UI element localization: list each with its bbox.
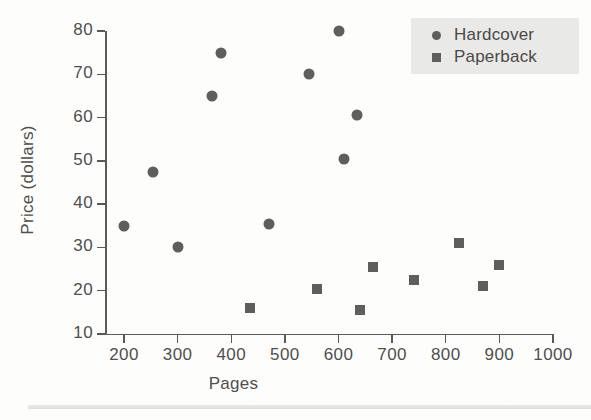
x-axis-tick-label: 800	[431, 345, 461, 365]
square-marker-icon	[427, 53, 445, 62]
data-point-hardcover	[338, 153, 349, 164]
x-axis-tick-label: 600	[324, 345, 354, 365]
y-axis-tick	[97, 203, 105, 204]
data-point-hardcover	[119, 220, 130, 231]
y-axis-tick	[97, 247, 105, 248]
data-point-paperback	[312, 284, 322, 294]
y-axis-tick	[97, 290, 105, 291]
legend-entry-hardcover: Hardcover	[411, 24, 579, 46]
x-axis-title-text: Pages	[209, 374, 259, 393]
x-axis-tick	[338, 334, 339, 343]
x-axis-tick-label: 300	[163, 345, 193, 365]
data-point-paperback	[355, 305, 365, 315]
data-point-hardcover	[333, 26, 344, 37]
y-axis-tick	[97, 333, 105, 334]
data-point-paperback	[368, 262, 378, 272]
data-point-paperback	[409, 275, 419, 285]
x-axis-tick-label: 700	[377, 345, 407, 365]
y-axis-tick-label: 50	[73, 150, 93, 170]
y-axis-tick	[97, 74, 105, 75]
y-axis-tick-label: 40	[73, 193, 93, 213]
x-axis-tick	[445, 334, 446, 343]
data-point-paperback	[478, 281, 488, 291]
y-axis-tick	[97, 117, 105, 118]
x-axis-tick	[552, 334, 553, 343]
y-axis-tick-label: 30	[73, 236, 93, 256]
y-axis-title: Price (dollars)	[18, 90, 38, 270]
legend-label-hardcover: Hardcover	[454, 25, 534, 45]
y-axis-tick-label: 10	[73, 323, 93, 343]
data-point-hardcover	[172, 242, 183, 253]
chart-legend: Hardcover Paperback	[411, 18, 579, 74]
data-point-hardcover	[148, 166, 159, 177]
page-scan-band	[28, 405, 591, 409]
x-axis-tick-label: 200	[109, 345, 139, 365]
legend-label-paperback: Paperback	[454, 47, 537, 67]
data-point-hardcover	[304, 69, 315, 80]
y-axis-tick	[97, 160, 105, 161]
data-point-paperback	[245, 303, 255, 313]
x-axis-tick	[499, 334, 500, 343]
x-axis-tick-label: 500	[270, 345, 300, 365]
x-axis-tick	[391, 334, 392, 343]
data-point-hardcover	[215, 47, 226, 58]
data-point-paperback	[494, 260, 504, 270]
x-axis-tick	[123, 334, 124, 343]
y-axis-tick	[97, 30, 105, 31]
x-axis-title: Pages	[0, 374, 591, 394]
x-axis-tick	[231, 334, 232, 343]
circle-marker-icon	[427, 31, 445, 40]
y-axis-tick-label: 70	[73, 63, 93, 83]
x-axis-tick-label: 400	[216, 345, 246, 365]
y-axis-tick-label: 80	[73, 20, 93, 40]
x-axis-tick-label: 900	[485, 345, 515, 365]
x-axis-tick	[284, 334, 285, 343]
data-point-paperback	[454, 238, 464, 248]
data-point-hardcover	[263, 218, 274, 229]
x-axis-tick-label: 1000	[533, 345, 572, 365]
x-axis-tick	[177, 334, 178, 343]
y-axis-tick-labels: 1020304050607080	[0, 0, 93, 420]
legend-entry-paperback: Paperback	[411, 46, 579, 68]
data-point-hardcover	[207, 90, 218, 101]
data-point-hardcover	[352, 110, 363, 121]
y-axis-tick-label: 20	[73, 280, 93, 300]
scatter-plot-figure: 1020304050607080 20030040050060070080090…	[0, 0, 591, 420]
y-axis-tick-label: 60	[73, 107, 93, 127]
